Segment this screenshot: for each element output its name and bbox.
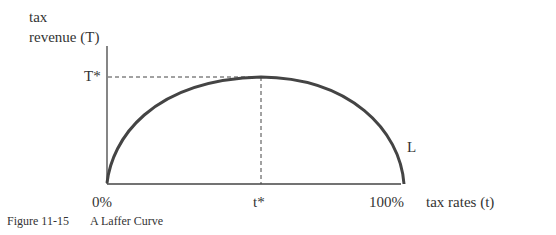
- curve-label: L: [407, 140, 416, 155]
- figure-number: Figure 11-15: [7, 215, 69, 227]
- y-axis-label-line2: revenue (T): [29, 30, 99, 45]
- x-axis-label: tax rates (t): [426, 195, 494, 210]
- x-tick-100: 100%: [369, 195, 404, 210]
- x-tick-tstar: t*: [253, 195, 265, 210]
- laffer-curve: [107, 77, 404, 184]
- y-axis-label-line1: tax: [29, 10, 47, 25]
- figure-title: A Laffer Curve: [90, 215, 163, 227]
- y-tick-tstar: T*: [84, 69, 101, 84]
- x-tick-0: 0%: [92, 195, 112, 210]
